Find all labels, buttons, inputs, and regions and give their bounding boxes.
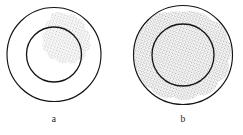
two-panel-annulus-diagram: a b [0,0,243,135]
figure-root: a b [0,0,243,135]
panel-b-label: b [181,114,186,124]
panel-a-stipple-region [42,12,90,64]
panel-b: b [132,6,233,125]
panel-a-label: a [52,114,57,124]
panel-a: a [7,8,101,125]
panel-a-stipple-group [42,12,90,64]
